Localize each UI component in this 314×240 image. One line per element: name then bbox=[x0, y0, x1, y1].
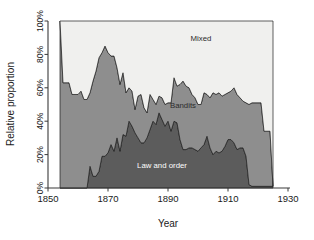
x-axis-ticks: 18501870189019101930 bbox=[37, 188, 298, 204]
x-tick-label: 1870 bbox=[97, 193, 118, 204]
stacked-area-chart: 0%20%40%60%80%100% 18501870189019101930 … bbox=[0, 0, 314, 240]
y-axis-ticks: 0%20%40%60%80%100% bbox=[35, 10, 48, 194]
x-tick-label: 1910 bbox=[217, 193, 238, 204]
y-tick-label: 100% bbox=[35, 10, 45, 32]
annotation-law-and-order: Law and order bbox=[137, 161, 187, 170]
y-tick-label: 80% bbox=[35, 45, 45, 62]
annotation-bandits: Bandits bbox=[170, 101, 196, 110]
y-tick-label: 20% bbox=[35, 146, 45, 163]
y-axis-title: Relative proportion bbox=[5, 62, 16, 146]
annotation-mixed: Mixed bbox=[191, 34, 212, 43]
chart-figure: 0%20%40%60%80%100% 18501870189019101930 … bbox=[0, 0, 314, 240]
x-axis-title: Year bbox=[158, 218, 179, 229]
x-tick-label: 1850 bbox=[37, 193, 58, 204]
x-tick-label: 1890 bbox=[157, 193, 178, 204]
y-tick-label: 60% bbox=[35, 79, 45, 96]
y-tick-label: 40% bbox=[35, 112, 45, 129]
x-tick-label: 1930 bbox=[277, 193, 298, 204]
